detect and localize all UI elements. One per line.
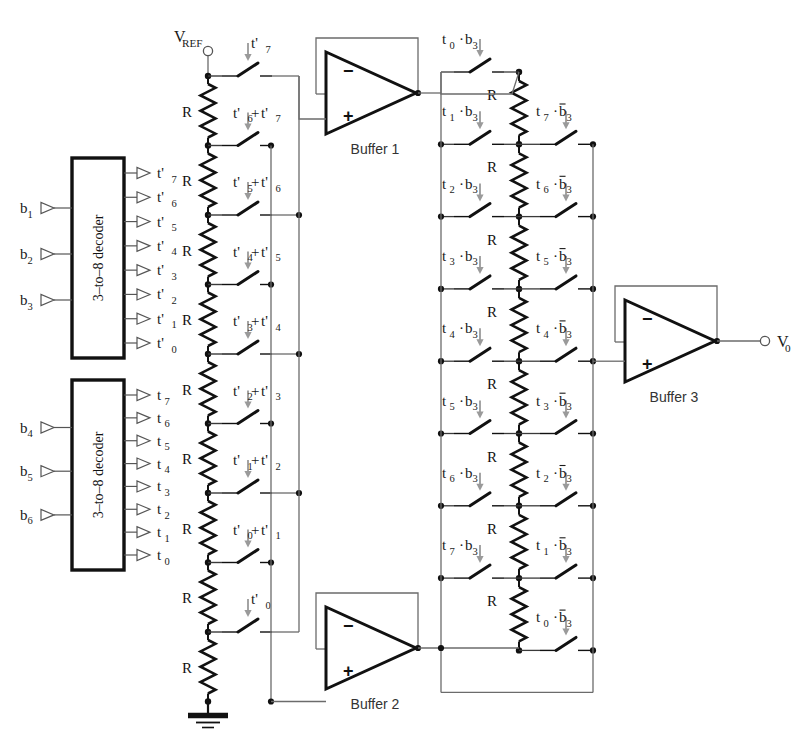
rrs-label-a-2-base: t (536, 248, 541, 264)
right-ladder-right-switch-5[interactable] (540, 493, 590, 506)
right-ladder-right-switch-0[interactable] (540, 131, 590, 144)
rls-label-a-0: t0 (442, 31, 455, 51)
left-ladder-switch-6[interactable] (222, 480, 272, 493)
opamp-label: Buffer 1 (351, 141, 400, 157)
resistor-zigzag (201, 432, 216, 486)
rrs-label-dot-5: · (553, 465, 558, 481)
rls-label-b-3: b3 (465, 248, 478, 268)
right-ladder-left-switch-1[interactable] (454, 131, 504, 144)
arrow-head (476, 484, 483, 491)
arrow-head (562, 556, 569, 563)
decoder-output-label-6: t'1 (157, 311, 177, 331)
decoder-output-label-7: t'0 (157, 335, 177, 355)
decoder-output-label-2-sub: 5 (165, 441, 170, 452)
right-ladder-right-switch-6[interactable] (540, 565, 590, 578)
opamp-triangle (326, 52, 416, 134)
switch-blade (470, 59, 490, 72)
resistor-zigzag (201, 84, 216, 138)
right-ladder-resistor-7 (512, 587, 527, 641)
rls-label-b-7-sub: 3 (473, 546, 478, 557)
rls-label-b-0-base: b (465, 31, 473, 47)
switch-blade (470, 348, 490, 361)
decoder-output-label-0: t7 (157, 387, 170, 407)
rls-label-dot-3: · (459, 248, 464, 264)
right-ladder-left-switch-4[interactable] (454, 348, 504, 361)
right-right-switch-label-5: t2·b3 (536, 465, 572, 485)
decoder-input-b2[interactable]: b2 (20, 246, 72, 266)
right-right-switch-label-7: t0·b3 (536, 609, 572, 629)
left-switch-label-op-2: + (251, 174, 259, 190)
resistor-zigzag (201, 293, 216, 347)
buffer-3: −+Buffer 3V0 (593, 286, 791, 405)
left-ladder-switch-7[interactable] (222, 550, 272, 563)
input-pin-triangle (41, 422, 54, 433)
left-switch-label-term1-6-base: t' (261, 452, 268, 468)
output-pin-triangle (137, 289, 150, 300)
rrs-label-a-2-sub: 5 (544, 256, 549, 267)
resistor-zigzag (201, 154, 216, 208)
rrs-label-a-5-sub: 2 (544, 473, 549, 484)
rls-label-a-5-sub: 5 (450, 401, 455, 412)
left-ladder-switch-4[interactable] (222, 341, 272, 354)
decoder-output-label-2-base: t' (157, 214, 164, 230)
decoder-output-t1: t1 (124, 524, 170, 544)
decoder-input-b5[interactable]: b5 (20, 463, 72, 483)
rrs-label-a-6-base: t (536, 537, 541, 553)
left-switch-label-term1-3-base: t' (261, 244, 268, 260)
right-ladder-right-switch-4[interactable] (540, 421, 590, 434)
output-label-sub: 0 (785, 342, 791, 354)
resistor-zigzag (201, 362, 216, 416)
decoder-input-b1[interactable]: b1 (20, 200, 72, 220)
decoder-input-b4[interactable]: b4 (20, 420, 72, 440)
opamp-label: Buffer 3 (650, 389, 699, 405)
decoder-output-label-5-base: t (157, 501, 162, 517)
decoder-output-label-0-base: t (157, 387, 162, 403)
left-switch-label-term1-5-base: t' (261, 383, 268, 399)
left-ladder-switch-2[interactable] (222, 202, 272, 215)
right-ladder-right-switch-1[interactable] (540, 204, 590, 217)
rls-label-dot-5: · (459, 393, 464, 409)
right-ladder-resistor-4 (512, 370, 527, 424)
rls-label-a-5: t5 (442, 393, 455, 413)
left-ladder-switch-3[interactable] (222, 272, 272, 285)
left-ladder-switch-1[interactable] (222, 133, 272, 146)
rls-label-b-7: b3 (465, 537, 478, 557)
rls-label-b-1-sub: 3 (473, 112, 478, 123)
switch-blade (556, 348, 576, 361)
decoder-output-t2: t2 (124, 501, 170, 521)
left-switch-label-term1-5-sub: 3 (276, 391, 281, 402)
left-switch-label-op-5: + (251, 383, 259, 399)
right-ladder-left-switch-7[interactable] (454, 565, 504, 578)
decoder-output-label-0-base: t' (157, 165, 164, 181)
right-ladder-left-switch-5[interactable] (454, 421, 504, 434)
left-ladder-switch-0[interactable] (222, 63, 272, 76)
decoder-output-label-7-base: t (157, 547, 162, 563)
left-ladder-switch-8[interactable] (222, 619, 272, 632)
decoder-input-b6[interactable]: b6 (20, 507, 72, 527)
left-switch-label-1: t'6+t'7 (233, 105, 281, 125)
right-ladder-right-switch-2[interactable] (540, 276, 590, 289)
right-left-switch-label-1: t1·b3 (442, 103, 478, 123)
right-ladder-left-switch-2[interactable] (454, 204, 504, 217)
schematic-svg: 3–to–8 decoderb1b2b3t'7t'6t'5t'4t'3t'2t'… (0, 0, 807, 740)
right-ladder-left-switch-3[interactable] (454, 276, 504, 289)
rrs-label-b-0-sub: 3 (567, 112, 572, 123)
right-ladder-left-switch-6[interactable] (454, 493, 504, 506)
rrs-label-b-2-sub: 3 (567, 256, 572, 267)
left-ladder-switch-5[interactable] (222, 411, 272, 424)
right-ladder-right-switch-3[interactable] (540, 348, 590, 361)
right-ladder-resistor-3 (512, 298, 527, 352)
output-pin-triangle (137, 240, 150, 251)
input-pin-triangle (41, 466, 54, 477)
rrs-label-dot-6: · (553, 537, 558, 553)
resistor-zigzag (512, 587, 527, 641)
resistor-zigzag (512, 153, 527, 207)
arrow-head (244, 610, 251, 617)
rrs-label-a-1-sub: 6 (544, 184, 549, 195)
buffer-1: −+Buffer 1 (299, 38, 441, 157)
decoder-output-label-0: t'7 (157, 165, 177, 185)
arrow-head (244, 541, 251, 548)
decoder-input-b3[interactable]: b3 (20, 292, 72, 312)
right-ladder-right-switch-7[interactable] (540, 637, 590, 650)
right-ladder-left-switch-0[interactable] (454, 59, 504, 72)
